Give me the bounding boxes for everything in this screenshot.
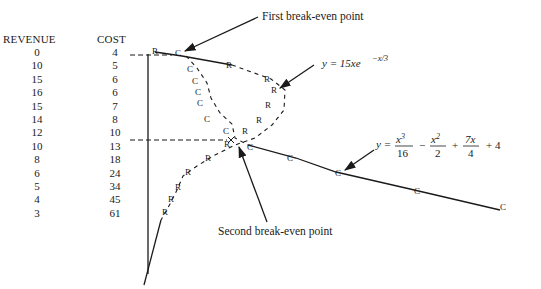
cost-equation: y = x3 16 − x2 2 + 7x 4 + 4 xyxy=(375,132,501,159)
svg-text:C: C xyxy=(197,98,203,108)
svg-text:R: R xyxy=(226,60,232,70)
svg-text:2: 2 xyxy=(435,147,441,159)
cost-markers: C C C C C C C C C C C C xyxy=(175,48,506,212)
svg-text:C: C xyxy=(247,142,253,152)
svg-text:C: C xyxy=(187,64,193,74)
revenue-eq-arrow xyxy=(280,65,314,88)
svg-text:+: + xyxy=(452,139,458,151)
svg-text:R: R xyxy=(162,207,168,217)
svg-text:7x: 7x xyxy=(465,133,476,145)
svg-text:R: R xyxy=(185,167,191,177)
svg-text:C: C xyxy=(414,186,420,196)
svg-text:R: R xyxy=(168,194,174,204)
svg-text:R: R xyxy=(152,46,158,56)
svg-text:−: − xyxy=(419,139,425,151)
svg-text:C: C xyxy=(287,153,293,163)
svg-text:R: R xyxy=(264,74,270,84)
svg-text:x2: x2 xyxy=(430,132,440,145)
svg-text:x3: x3 xyxy=(395,132,405,145)
svg-text:C: C xyxy=(335,168,341,178)
svg-text:C: C xyxy=(204,114,210,124)
revenue-equation: y = 15xe −x/3 xyxy=(321,53,388,69)
svg-text:C: C xyxy=(175,48,181,58)
svg-text:R: R xyxy=(242,126,248,136)
first-break-even-arrow xyxy=(185,17,258,51)
svg-text:C: C xyxy=(192,76,198,86)
revenue-curve-dashed xyxy=(161,65,285,220)
revenue-markers: R R R R R R R R R R R R R xyxy=(152,46,277,217)
svg-text:R: R xyxy=(175,182,181,192)
break-even-diagram: R R R R R R R R R R R R R C C C C C C C … xyxy=(0,0,541,289)
cost-eq-arrow xyxy=(345,150,374,170)
svg-text:R: R xyxy=(256,115,262,125)
cost-curve-dashed xyxy=(186,56,248,145)
second-break-even-label: Second break-even point xyxy=(218,225,333,238)
svg-text:y =: y = xyxy=(375,138,391,150)
svg-text:−x/3: −x/3 xyxy=(372,53,388,63)
svg-text:C: C xyxy=(500,202,506,212)
cost-curve-solid xyxy=(248,145,500,210)
svg-text:16: 16 xyxy=(397,147,409,159)
svg-text:4: 4 xyxy=(468,147,474,159)
first-break-even-label: First break-even point xyxy=(262,10,364,23)
revenue-curve-solid xyxy=(155,52,232,65)
svg-text:C: C xyxy=(223,126,229,136)
svg-text:R: R xyxy=(224,139,230,149)
svg-text:R: R xyxy=(265,100,271,110)
second-break-even-arrow xyxy=(239,147,267,222)
svg-text:R: R xyxy=(271,85,277,95)
svg-text:C: C xyxy=(195,87,201,97)
svg-text:y = 15xe: y = 15xe xyxy=(321,57,361,69)
svg-text:+ 4: + 4 xyxy=(486,139,501,151)
svg-text:R: R xyxy=(205,153,211,163)
revenue-curve-tail xyxy=(144,220,161,285)
